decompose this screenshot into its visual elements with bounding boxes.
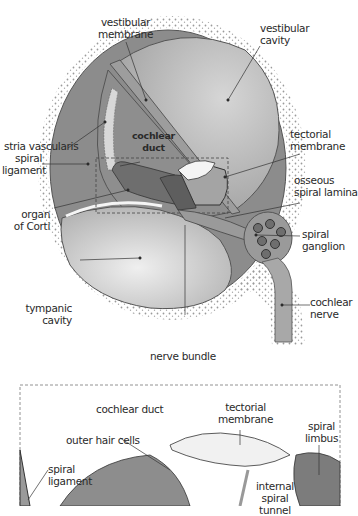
detail-label-tectorial-membrane: tectorial membrane [218, 401, 273, 425]
label-nerve-bundle: nerve bundle [150, 350, 216, 362]
label-cochlear-nerve: cochlear nerve [310, 296, 352, 320]
label-cochlear-duct: cochlear duct [132, 130, 175, 154]
label-vestibular-membrane: vestibular membrane [98, 16, 153, 40]
label-organ-of-corti: organ of Corti [4, 208, 50, 232]
label-stria-vascularis: stria vascularis [4, 140, 78, 152]
label-osseous-spiral-lamina: osseous spiral lamina [294, 174, 358, 198]
label-tectorial-membrane: tectorial membrane [290, 128, 345, 152]
detail-label-spiral-ligament: spiral ligament [48, 463, 92, 487]
spiral-ganglion-shape [244, 212, 292, 264]
spiral-limbus-detail [294, 453, 340, 506]
detail-label-outer-hair-cells: outer hair cells [66, 434, 140, 446]
detail-label-spiral-limbus: spiral limbus [305, 420, 338, 444]
label-tympanic-cavity: tympanic cavity [10, 302, 72, 326]
label-spiral-ligament: spiral ligament [2, 152, 42, 176]
detail-label-cochlear-duct: cochlear duct [96, 403, 163, 415]
label-vestibular-cavity: vestibular cavity [260, 22, 309, 46]
detail-label-internal-spiral-tunnel: internal spiral tunnel [256, 480, 294, 516]
label-spiral-ganglion: spiral ganglion [302, 228, 345, 252]
